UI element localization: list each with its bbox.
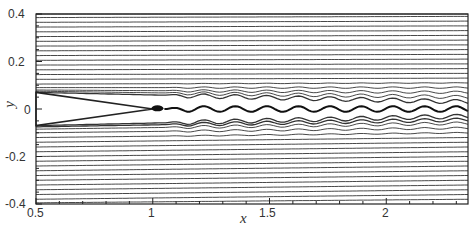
vortex-blob (151, 105, 163, 111)
y-tick-label--0.2: -0.2 (5, 151, 26, 163)
streamline (36, 199, 468, 203)
streamline (36, 152, 468, 157)
streamline (36, 45, 468, 46)
x-axis-title: x (240, 210, 247, 227)
y-tick-label--0.4: -0.4 (5, 198, 26, 210)
streamline (36, 35, 468, 36)
streamline (36, 31, 468, 32)
streamline (36, 185, 468, 190)
streamline-plot (0, 0, 476, 229)
streamline (36, 176, 468, 181)
streamline (36, 132, 468, 137)
streamline (36, 83, 468, 84)
streamline (36, 21, 468, 22)
streamline (36, 26, 468, 27)
streamline (36, 64, 468, 65)
streamline (36, 157, 468, 162)
streamline (36, 142, 468, 147)
streamline (36, 54, 468, 55)
streamline (36, 90, 468, 94)
streamline (36, 59, 468, 60)
x-tick-label-0.5: 0.5 (27, 207, 44, 219)
wake-centerline (164, 106, 468, 112)
streamline (36, 147, 468, 152)
streamline (36, 190, 468, 195)
y-axis-title: y (1, 101, 18, 108)
streamline (36, 87, 468, 88)
x-tick-label-2: 2 (382, 207, 389, 219)
y-tick-label-0.4: 0.4 (8, 8, 25, 20)
wedge-body (36, 92, 153, 125)
y-tick-label-0.2: 0.2 (8, 56, 25, 68)
streamline (36, 161, 468, 166)
streamline (36, 195, 468, 200)
x-tick-label-1: 1 (148, 207, 155, 219)
streamline (36, 73, 468, 74)
y-tick-label-0: 0 (24, 104, 31, 116)
streamline (36, 180, 468, 185)
streamline (36, 16, 468, 17)
streamline (36, 171, 468, 176)
x-tick-label-1.5: 1.5 (259, 207, 276, 219)
streamline (36, 166, 468, 171)
streamline (36, 78, 468, 79)
streamline (36, 69, 468, 70)
streamline (36, 40, 468, 41)
wake-vortex-region (151, 105, 468, 112)
streamline (36, 50, 468, 51)
streamline (36, 138, 468, 143)
